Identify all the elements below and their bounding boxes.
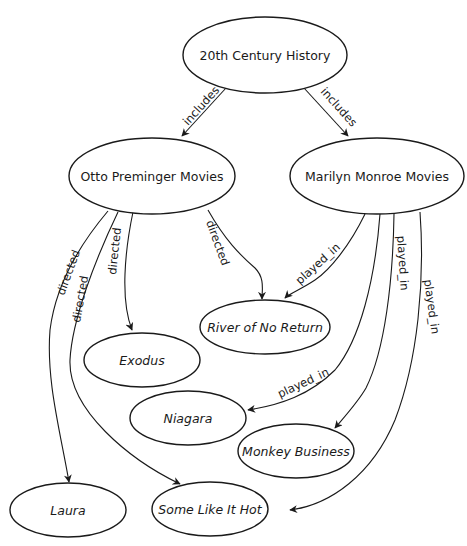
node-otto-preminger-movies: Otto Preminger Movies (69, 138, 235, 214)
node-20th-century-history: 20th Century History (183, 17, 347, 93)
node-some-like-it-hot: Some Like It Hot (152, 482, 268, 536)
edge-label: played_in (275, 365, 331, 401)
node-label: Some Like It Hot (158, 502, 262, 517)
graph-canvas: includes includes directed directed dire… (0, 0, 467, 546)
edge-label: includes (318, 85, 360, 130)
node-label: Exodus (119, 353, 165, 368)
node-label: Niagara (164, 411, 213, 426)
edge-includes-preminger: includes (180, 83, 226, 136)
edge-label: directed (69, 275, 91, 324)
edge-label: includes (180, 83, 222, 128)
edge-includes-monroe: includes (304, 85, 360, 136)
edge-directed-river: directed (203, 210, 262, 299)
node-label: Otto Preminger Movies (81, 169, 224, 184)
node-label: Monkey Business (242, 444, 350, 459)
node-river-of-no-return: River of No Return (200, 300, 330, 354)
edge-played-river: played_in (285, 214, 365, 298)
node-niagara: Niagara (130, 391, 246, 445)
edge-label: played_in (293, 240, 343, 287)
node-label: Marilyn Monroe Movies (305, 169, 449, 184)
node-label: Laura (50, 503, 85, 518)
edge-label: played_in (421, 278, 443, 334)
node-laura: Laura (10, 483, 126, 537)
edge-label: played_in (394, 235, 412, 291)
node-marilyn-monroe-movies: Marilyn Monroe Movies (290, 138, 464, 214)
edge-directed-exodus: directed (105, 212, 133, 330)
edge-label: directed (203, 218, 232, 267)
node-exodus: Exodus (84, 333, 200, 387)
node-label: 20th Century History (200, 48, 331, 63)
node-monkey-business: Monkey Business (238, 424, 354, 478)
node-label: River of No Return (207, 320, 323, 335)
